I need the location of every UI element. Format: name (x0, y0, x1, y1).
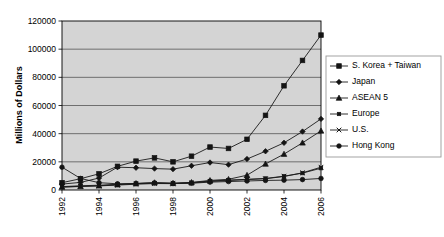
legend-item-label: U.S. (352, 124, 369, 134)
legend-item-label: ASEAN 5 (352, 92, 388, 102)
y-axis-title: Millions of Dollars (14, 66, 24, 144)
data-point (245, 137, 250, 142)
data-point (319, 176, 324, 181)
y-tick-label: 120000 (28, 16, 57, 26)
x-tick-label: 1996 (131, 197, 141, 216)
y-tick-label: 100000 (28, 44, 57, 54)
data-point (226, 146, 231, 151)
x-tick-label: 2004 (279, 197, 289, 216)
data-point (245, 179, 250, 184)
data-point (282, 178, 287, 183)
x-tick-label: 2000 (205, 197, 215, 216)
data-point (60, 165, 65, 170)
y-tick-label: 0 (51, 185, 56, 195)
legend-item-label: Europe (352, 108, 380, 118)
y-tick-label: 60000 (32, 101, 56, 111)
chart-container: 020000400006000080000100000120000 199219… (0, 0, 444, 237)
data-point (97, 180, 102, 185)
x-tick-label: 1998 (168, 197, 178, 216)
data-point (115, 182, 120, 187)
y-tick-label: 80000 (32, 72, 56, 82)
legend-marker-small-square-icon (337, 112, 340, 115)
data-point (134, 159, 139, 164)
data-point (171, 160, 176, 165)
data-point (319, 33, 324, 38)
data-point (263, 113, 268, 118)
data-point (208, 180, 213, 185)
data-point (78, 176, 83, 181)
x-tick-label: 2006 (316, 197, 326, 216)
data-point (282, 83, 287, 88)
data-point (208, 145, 213, 150)
x-tick-label: 1992 (57, 197, 67, 216)
x-tick-label: 2002 (242, 197, 252, 216)
data-point (134, 181, 139, 186)
data-point (189, 154, 194, 159)
legend-marker-square-icon (337, 64, 342, 69)
legend-item-label: Japan (352, 76, 375, 86)
chart-legend: S. Korea + TaiwanJapanASEAN 5EuropeU.S.H… (326, 56, 441, 157)
data-point (300, 177, 305, 182)
data-point (152, 181, 157, 186)
data-point (152, 156, 157, 161)
data-point (189, 181, 194, 186)
y-tick-label: 20000 (32, 157, 56, 167)
line-chart: 020000400006000080000100000120000 199219… (0, 0, 444, 237)
legend-item-label: S. Korea + Taiwan (352, 60, 421, 70)
data-point (300, 58, 305, 63)
data-point (263, 178, 268, 183)
x-tick-label: 1994 (94, 197, 104, 216)
legend-item-label: Hong Kong (352, 140, 395, 150)
data-point (171, 181, 176, 186)
legend-marker-circle-icon (337, 144, 342, 149)
y-tick-label: 40000 (32, 129, 56, 139)
data-point (226, 179, 231, 184)
